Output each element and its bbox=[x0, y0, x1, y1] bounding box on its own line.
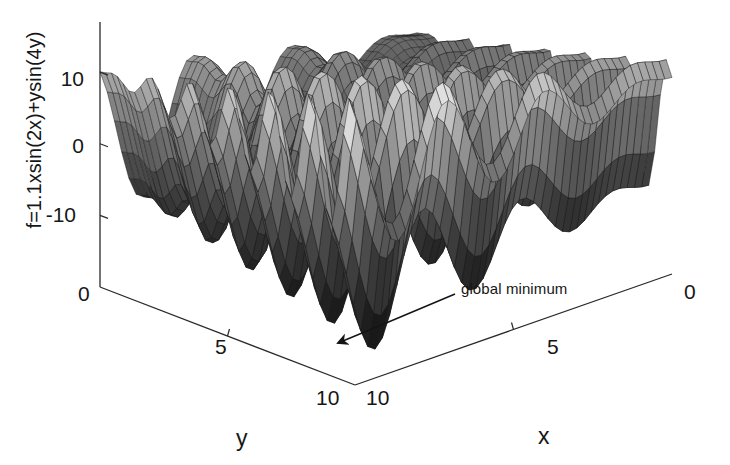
figure-3d-surface-plot: f=1.1xsin(2x)+ysin(4y) 10 0 -10 0 5 10 1… bbox=[0, 0, 730, 465]
x-tick-5: 5 bbox=[547, 336, 559, 357]
y-tick-5: 5 bbox=[215, 336, 227, 357]
z-tick-0: 0 bbox=[38, 135, 84, 156]
x-axis-title: x bbox=[538, 425, 550, 448]
y-tick-0: 0 bbox=[78, 283, 90, 304]
z-tick-neg10: -10 bbox=[30, 204, 76, 225]
y-axis-title: y bbox=[236, 427, 248, 450]
x-tick-0: 0 bbox=[684, 281, 696, 302]
x-tick-10: 10 bbox=[366, 387, 389, 408]
y-tick-10: 10 bbox=[316, 387, 339, 408]
surface-plot-canvas bbox=[0, 0, 730, 465]
surface-mesh bbox=[100, 33, 672, 349]
z-tick-10: 10 bbox=[38, 68, 84, 89]
global-minimum-label: global minimum bbox=[461, 281, 567, 296]
